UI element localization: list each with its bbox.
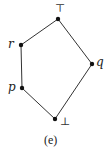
label-r: r [8, 38, 14, 50]
label-q: q [96, 56, 104, 68]
figure-caption: (e) [44, 134, 57, 146]
node-bottom [53, 117, 57, 121]
hasse-diagram: ⊤ r q p ⊥ (e) [0, 0, 109, 149]
node-p [20, 86, 24, 90]
lattice-graph [0, 0, 109, 149]
node-top [56, 17, 60, 21]
edge-p-bottom [22, 88, 55, 119]
edge-q-bottom [55, 64, 92, 119]
edge-top-q [58, 19, 92, 64]
node-q [90, 62, 94, 66]
edge-r-p [21, 45, 22, 88]
node-r [19, 43, 23, 47]
label-bottom: ⊥ [60, 116, 70, 127]
edge-top-r [21, 19, 58, 45]
label-top: ⊤ [55, 3, 65, 14]
label-p: p [8, 81, 16, 93]
